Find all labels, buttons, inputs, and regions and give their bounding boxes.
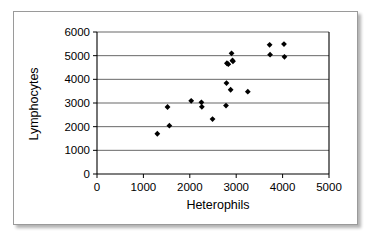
- x-tick-marks: [97, 174, 329, 178]
- data-point: [199, 104, 205, 110]
- data-point: [282, 54, 288, 60]
- x-axis-title: Heterophils: [186, 198, 249, 212]
- y-tick-label: 1000: [64, 144, 90, 156]
- x-tick-labels: 010002000300040005000: [94, 181, 342, 193]
- data-point: [245, 89, 251, 95]
- x-tick-label: 5000: [316, 181, 342, 193]
- data-point: [267, 42, 273, 48]
- x-tick-label: 3000: [223, 181, 249, 193]
- y-tick-label: 2000: [64, 121, 90, 133]
- data-point: [154, 131, 160, 137]
- data-point: [267, 52, 273, 58]
- chart-svg: 010002000300040005000 010002000300040005…: [14, 12, 359, 226]
- y-tick-label: 0: [84, 168, 90, 180]
- y-tick-marks: [93, 32, 97, 174]
- y-tick-label: 6000: [64, 26, 90, 38]
- x-tick-label: 2000: [177, 181, 203, 193]
- data-point: [199, 99, 205, 105]
- figure-frame: 010002000300040005000 010002000300040005…: [13, 11, 358, 225]
- data-point: [228, 87, 234, 93]
- y-tick-label: 4000: [64, 73, 90, 85]
- data-point: [223, 103, 229, 109]
- y-axis-title: Lymphocytes: [27, 67, 41, 140]
- data-point: [224, 80, 230, 86]
- scatter-chart: 010002000300040005000 010002000300040005…: [14, 12, 359, 226]
- y-tick-label: 5000: [64, 50, 90, 62]
- grid-lines: [97, 32, 329, 150]
- x-tick-label: 4000: [270, 181, 296, 193]
- x-tick-label: 1000: [131, 181, 157, 193]
- y-tick-label: 3000: [64, 97, 90, 109]
- data-point: [281, 41, 287, 47]
- y-tick-labels: 0100020003000400050006000: [64, 26, 90, 180]
- data-point: [165, 104, 171, 110]
- clipped-caption-text: . . . . .: [0, 0, 374, 3]
- data-point: [210, 116, 216, 122]
- data-point: [166, 123, 172, 129]
- x-tick-label: 0: [94, 181, 100, 193]
